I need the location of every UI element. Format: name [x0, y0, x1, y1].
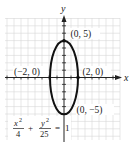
eq-rhs: 1	[65, 123, 70, 133]
x-axis-label: x	[123, 72, 129, 83]
equation: x 2 4 + y 2 25 = 1	[8, 116, 71, 142]
point-label-top: (0, 5)	[71, 29, 92, 40]
point-label-left: (−2, 0)	[14, 67, 40, 78]
eq-equals: =	[55, 123, 60, 133]
eq-term2-numerator: y	[40, 118, 45, 128]
eq-term2-exponent: 2	[46, 117, 49, 123]
point-dot-right	[76, 76, 80, 80]
point-label-right: (2, 0)	[83, 67, 104, 78]
ellipse-figure: x y (0, 5) (2, 0) (−2, 0) (0, −5) x 2 4 …	[0, 0, 136, 146]
eq-term2-denominator: 25	[40, 129, 49, 139]
point-label-bottom: (0, −5)	[77, 105, 103, 116]
point-dot-top	[62, 39, 66, 43]
eq-plus: +	[28, 123, 33, 133]
x-axis-arrow-icon	[115, 75, 122, 80]
eq-term1-exponent: 2	[19, 117, 22, 123]
eq-term1-numerator: x	[13, 118, 18, 128]
y-axis-label: y	[60, 3, 66, 14]
